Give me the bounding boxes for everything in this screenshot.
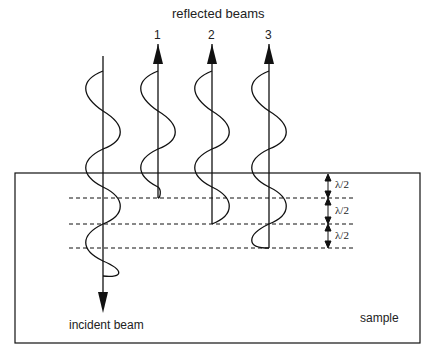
- beam-number-3: 3: [265, 28, 272, 42]
- beam-number-1: 1: [154, 28, 161, 42]
- reflected-beam-2: [195, 44, 230, 224]
- reflected-beam-1: [141, 44, 176, 198]
- incident-beam: [86, 56, 121, 313]
- reflected-beam-3: [252, 44, 287, 248]
- spacing-label-2: λ/2: [335, 204, 349, 216]
- title-reflected-beams: reflected beams: [172, 6, 265, 21]
- beam-number-2: 2: [208, 28, 215, 42]
- spacing-label-1: λ/2: [335, 178, 349, 190]
- incident-beam-label: incident beam: [69, 318, 144, 332]
- incident-arrow-icon: [98, 292, 108, 313]
- spacing-label-3: λ/2: [335, 229, 349, 241]
- spacing-arrows: [325, 174, 331, 248]
- diagram-canvas: [0, 0, 433, 355]
- sample-label: sample: [360, 311, 399, 325]
- arrow-up-icon: [207, 44, 217, 64]
- arrow-up-icon: [153, 44, 163, 64]
- arrow-up-icon: [264, 44, 274, 64]
